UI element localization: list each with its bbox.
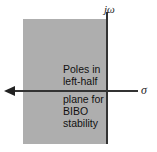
stability-annotation: Poles in left-half plane for BIBO stabil… xyxy=(63,63,104,129)
annotation-line: left-half xyxy=(63,75,104,87)
annotation-line: stability xyxy=(63,117,104,129)
imaginary-axis xyxy=(106,12,108,144)
annotation-line: plane for xyxy=(63,93,104,105)
real-axis-label: σ xyxy=(141,83,147,98)
annotation-line: BIBO xyxy=(63,105,104,117)
imaginary-axis-label: jω xyxy=(104,3,115,15)
arrow-left-icon xyxy=(4,86,15,96)
annotation-line: Poles in xyxy=(63,63,104,75)
